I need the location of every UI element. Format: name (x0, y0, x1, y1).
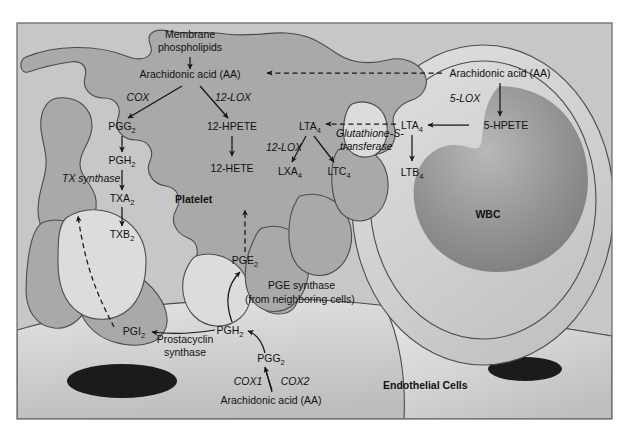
label-membrane-phospholipids-line1: Membrane (165, 28, 215, 40)
label-cell-wbc: WBC (475, 208, 500, 220)
label-5hpete: 5-HPETE (484, 119, 528, 131)
label-arachidonic-acid-endothelial: Arachidonic acid (AA) (221, 394, 322, 406)
label-arachidonic-acid-wbc: Arachidonic acid (AA) (450, 67, 551, 79)
label-enzyme-5lox: 5-LOX (450, 92, 481, 104)
figure-root: Membrane phospholipids Arachidonic acid … (0, 0, 627, 431)
label-enzyme-glutathione-line2: transferase (340, 140, 393, 152)
label-enzyme-pge-synthase-line2: (from neighboring cells) (245, 293, 355, 305)
pathway-diagram: Membrane phospholipids Arachidonic acid … (0, 0, 627, 431)
label-cell-endothelial: Endothelial Cells (383, 379, 468, 391)
label-enzyme-pge-synthase-line1: PGE synthase (268, 279, 335, 291)
label-enzyme-12lox-lower: 12-LOX (266, 141, 303, 153)
label-enzyme-cox2: COX2 (281, 375, 310, 387)
label-enzyme-12lox-upper: 12-LOX (215, 91, 252, 103)
label-12hpete: 12-HPETE (207, 120, 257, 132)
label-enzyme-prostacyclin-line2: synthase (164, 346, 206, 358)
label-enzyme-prostacyclin-line1: Prostacyclin (157, 333, 214, 345)
label-enzyme-cox: COX (127, 91, 151, 103)
label-cell-platelet: Platelet (175, 193, 213, 205)
label-membrane-phospholipids-line2: phospholipids (158, 41, 222, 53)
label-enzyme-tx-synthase: TX synthase (62, 172, 121, 184)
endothelial-nucleus-left (67, 364, 177, 398)
label-enzyme-glutathione-line1: Glutathione-S- (336, 127, 404, 139)
label-arachidonic-acid-platelet: Arachidonic acid (AA) (140, 68, 241, 80)
label-enzyme-cox1: COX1 (234, 375, 263, 387)
label-12hete: 12-HETE (210, 162, 253, 174)
